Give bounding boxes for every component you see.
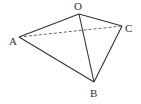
vertex-label-B: B xyxy=(90,87,97,99)
edge-BC xyxy=(94,26,122,82)
vertex-label-C: C xyxy=(125,22,132,34)
tetrahedron-diagram: O A B C xyxy=(0,0,141,104)
vertex-label-O: O xyxy=(74,0,82,12)
edge-OB xyxy=(79,14,94,82)
vertex-label-A: A xyxy=(9,35,17,47)
edge-OC xyxy=(79,14,122,26)
edge-AB xyxy=(19,37,94,82)
